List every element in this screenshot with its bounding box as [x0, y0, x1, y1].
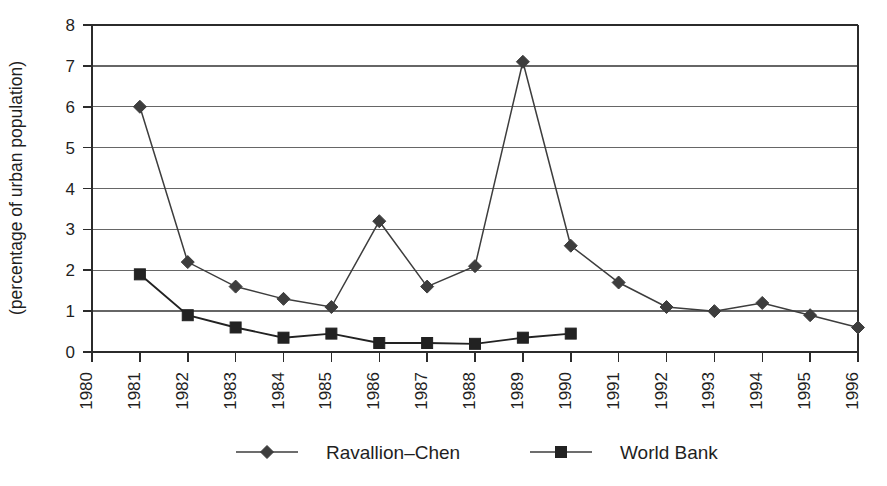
data-point-marker	[261, 446, 274, 459]
x-axis-tick-label: 1991	[604, 372, 623, 410]
y-axis-tick-label: 7	[66, 57, 75, 76]
y-axis-tick-label: 2	[66, 261, 75, 280]
y-axis-ticks	[83, 25, 92, 352]
data-point-marker	[556, 447, 567, 458]
line-chart: 012345678 198019811982198319841985198619…	[0, 0, 887, 486]
x-axis-tick-label: 1986	[364, 372, 383, 410]
x-axis-tick-label: 1980	[77, 372, 96, 410]
chart-figure: 012345678 198019811982198319841985198619…	[0, 0, 887, 486]
x-axis-tick-label: 1994	[747, 372, 766, 410]
x-axis-tick-label: 1985	[316, 372, 335, 410]
x-axis-tick-label: 1993	[699, 372, 718, 410]
chart-legend: Ravallion–ChenWorld Bank	[236, 442, 718, 463]
y-axis-tick-label: 0	[66, 343, 75, 362]
x-axis-tick-label: 1996	[843, 372, 862, 410]
data-point-marker	[182, 310, 193, 321]
legend-label: Ravallion–Chen	[326, 442, 460, 463]
data-point-marker	[326, 328, 337, 339]
x-axis-tick-label: 1987	[412, 372, 431, 410]
data-point-marker	[278, 332, 289, 343]
y-axis-tick-label: 8	[66, 16, 75, 35]
x-axis-tick-label: 1983	[221, 372, 240, 410]
x-axis-tick-label: 1990	[556, 372, 575, 410]
y-axis-tick-label: 4	[66, 180, 75, 199]
data-point-marker	[422, 338, 433, 349]
x-axis-tick-label: 1995	[795, 372, 814, 410]
x-axis-tick-label: 1984	[269, 372, 288, 410]
data-point-marker	[517, 332, 528, 343]
x-axis-tick-label: 1988	[460, 372, 479, 410]
y-axis-tick-label: 1	[66, 302, 75, 321]
legend-item[interactable]: Ravallion–Chen	[236, 442, 460, 463]
legend-item[interactable]: World Bank	[530, 442, 718, 463]
x-axis-tick-labels: 1980198119821983198419851986198719881989…	[77, 372, 862, 410]
y-axis-title: (percentage of urban population)	[6, 61, 26, 315]
data-point-marker	[470, 338, 481, 349]
x-axis-tick-label: 1989	[508, 372, 527, 410]
data-point-marker	[134, 269, 145, 280]
x-axis-tick-label: 1982	[173, 372, 192, 410]
y-axis-tick-label: 5	[66, 139, 75, 158]
x-axis-tick-label: 1981	[125, 372, 144, 410]
data-point-marker	[565, 328, 576, 339]
data-point-marker	[230, 322, 241, 333]
data-point-marker	[374, 338, 385, 349]
y-axis-tick-label: 3	[66, 220, 75, 239]
x-axis-ticks	[92, 352, 858, 362]
x-axis-tick-label: 1992	[652, 372, 671, 410]
y-axis-tick-label: 6	[66, 98, 75, 117]
legend-label: World Bank	[620, 442, 718, 463]
y-axis-tick-labels: 012345678	[66, 16, 75, 362]
